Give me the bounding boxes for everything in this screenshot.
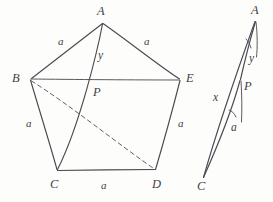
pentagon-edge-de <box>156 81 181 170</box>
pentagon-diagonals <box>31 24 180 170</box>
pentagon-diagonal-be <box>31 79 180 80</box>
triangle-side-ac <box>204 22 256 178</box>
figure-canvas <box>0 0 273 202</box>
vertex-label-e: E <box>186 72 194 85</box>
vertex-label-b: B <box>12 72 20 85</box>
detached-triangle-outline <box>204 22 258 178</box>
pentagon-edge-bc <box>31 80 58 170</box>
segment-label-y-left: y <box>98 50 103 62</box>
triangle-segment-label-x: x <box>213 92 218 104</box>
triangle-segment-label-a: a <box>231 122 237 134</box>
vertex-label-p: P <box>93 86 101 99</box>
vertex-label-d: D <box>152 178 161 191</box>
triangle-vertex-label-c: C <box>197 180 205 193</box>
side-label-de: a <box>178 118 184 129</box>
pentagon-edge-cd <box>58 170 156 171</box>
triangle-tick-p <box>241 81 242 122</box>
side-label-cd: a <box>101 180 107 191</box>
triangle-vertex-label-p: P <box>244 80 252 93</box>
vertex-label-a: A <box>97 5 105 18</box>
vertex-label-c: C <box>50 178 58 191</box>
side-label-ab: a <box>58 36 64 47</box>
geometry-figure: A B C D E P a a a a a y A P C y x a <box>0 0 273 202</box>
triangle-segment-label-y: y <box>249 53 254 65</box>
side-label-ae: a <box>144 36 150 47</box>
triangle-tick-a <box>256 22 257 57</box>
triangle-vertex-label-a: A <box>251 4 259 17</box>
triangle-side-ap <box>241 22 256 80</box>
side-label-bc: a <box>26 118 32 129</box>
pentagon-outline <box>31 24 181 171</box>
pentagon-edge-ae <box>103 24 180 80</box>
